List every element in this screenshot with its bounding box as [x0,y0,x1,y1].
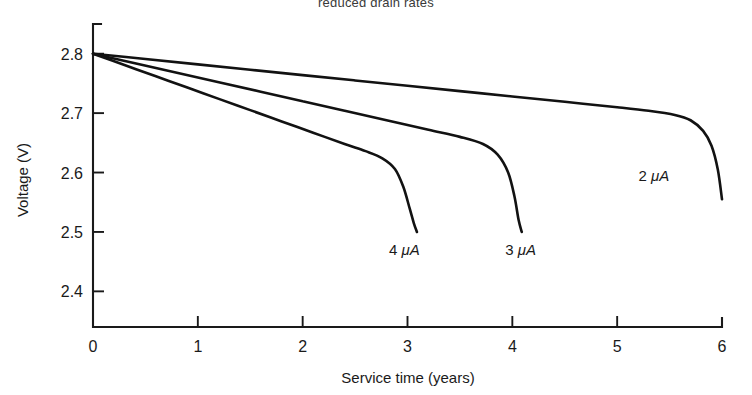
series-label: 2 μA [638,167,669,184]
y-tick-label: 2.4 [61,283,83,300]
x-tick-label: 3 [403,338,412,355]
curve-4-a [93,54,417,232]
y-tick-label: 2.6 [61,165,83,182]
x-tick-label: 4 [508,338,517,355]
voltage-vs-service-time-chart: 2.82.72.62.52.4 0123456 2 μA3 μA4 μA Vol… [0,0,752,395]
x-axis-title: Service time (years) [341,369,474,386]
x-tick-label: 6 [718,338,727,355]
y-tick-label: 2.7 [61,105,83,122]
series-label: 3 μA [505,241,536,258]
axis-frame [93,24,722,327]
curve-3-a [93,54,522,232]
chart-page: reduced drain rates 2.82.72.62.52.4 0123… [0,0,752,395]
y-tick-label: 2.8 [61,46,83,63]
x-tick-label: 5 [613,338,622,355]
x-tick-label: 2 [298,338,307,355]
series-label: 4 μA [389,241,420,258]
x-axis-ticks: 0123456 [89,316,727,355]
series-annotations: 2 μA3 μA4 μA [389,167,669,257]
y-tick-label: 2.5 [61,224,83,241]
data-curves [93,54,722,232]
x-tick-label: 1 [193,338,202,355]
x-tick-label: 0 [89,338,98,355]
axes-group [93,24,722,327]
y-axis-title: Voltage (V) [14,143,31,217]
y-axis-ticks: 2.82.72.62.52.4 [61,46,104,301]
